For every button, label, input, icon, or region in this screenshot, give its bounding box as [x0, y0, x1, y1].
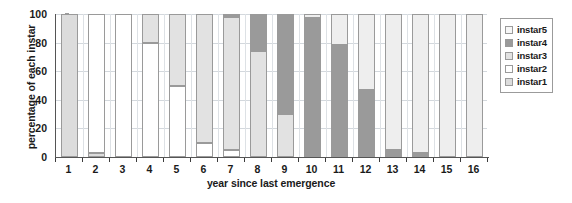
y-tick-label: 80: [17, 37, 47, 48]
x-tick-mark: [190, 158, 191, 162]
vertical-gridline: [110, 14, 111, 157]
bar-segment[interactable]: [196, 143, 214, 157]
y-tick-label: 0: [17, 152, 47, 163]
x-tick-label: 12: [351, 163, 381, 175]
x-tick-mark: [217, 158, 218, 162]
plot-area: [55, 14, 487, 157]
vertical-gridline: [218, 14, 219, 157]
bar-segment[interactable]: [115, 14, 133, 157]
x-tick-label: 5: [162, 163, 192, 175]
x-tick-label: 13: [378, 163, 408, 175]
bar-segment[interactable]: [358, 14, 376, 90]
vertical-gridline: [326, 14, 327, 157]
x-tick-label: 8: [243, 163, 273, 175]
bar-segment[interactable]: [169, 14, 187, 86]
legend-item[interactable]: instar5: [505, 23, 547, 36]
vertical-gridline: [245, 14, 246, 157]
bar-segment[interactable]: [277, 14, 295, 114]
legend-swatch-icon: [505, 65, 513, 73]
legend-swatch-icon: [505, 78, 513, 86]
chart-figure: percentage of each instar 020406080100 1…: [0, 0, 572, 203]
x-tick-label: 10: [297, 163, 327, 175]
x-tick-mark: [352, 158, 353, 162]
x-tick-mark: [379, 158, 380, 162]
bar-column[interactable]: [223, 14, 241, 157]
vertical-gridline: [434, 14, 435, 157]
legend-label: instar1: [517, 76, 547, 87]
vertical-gridline: [164, 14, 165, 157]
bar-column[interactable]: [61, 14, 79, 157]
legend-label: instar5: [517, 24, 547, 35]
x-tick-mark: [244, 158, 245, 162]
bar-segment[interactable]: [331, 14, 349, 45]
bar-segment[interactable]: [196, 14, 214, 143]
x-tick-mark: [109, 158, 110, 162]
x-axis-label: year since last emergence: [55, 177, 487, 189]
bar-segment[interactable]: [223, 17, 241, 150]
bar-segment[interactable]: [61, 14, 79, 157]
x-tick-label: 1: [54, 163, 84, 175]
bar-segment[interactable]: [304, 18, 322, 157]
legend-swatch-icon: [505, 26, 513, 34]
bar-column[interactable]: [412, 14, 430, 157]
bar-segment[interactable]: [250, 51, 268, 157]
bar-column[interactable]: [304, 14, 322, 157]
bar-column[interactable]: [358, 14, 376, 157]
bar-segment[interactable]: [385, 14, 403, 150]
x-tick-label: 4: [135, 163, 165, 175]
bar-segment[interactable]: [223, 14, 241, 17]
vertical-gridline: [353, 14, 354, 157]
legend-item[interactable]: instar2: [505, 62, 547, 75]
bar-column[interactable]: [196, 14, 214, 157]
legend-label: instar2: [517, 63, 547, 74]
bar-column[interactable]: [439, 14, 457, 157]
legend: instar5instar4instar3instar2instar1: [500, 18, 553, 93]
y-tick-label: 40: [17, 95, 47, 106]
bar-segment[interactable]: [88, 14, 106, 153]
legend-label: instar3: [517, 50, 547, 61]
bar-column[interactable]: [466, 14, 484, 157]
bar-segment[interactable]: [358, 90, 376, 157]
x-tick-label: 6: [189, 163, 219, 175]
legend-label: instar4: [517, 37, 547, 48]
bar-column[interactable]: [115, 14, 133, 157]
bar-column[interactable]: [250, 14, 268, 157]
bar-segment[interactable]: [142, 14, 160, 43]
vertical-gridline: [380, 14, 381, 157]
legend-swatch-icon: [505, 52, 513, 60]
bar-segment[interactable]: [304, 14, 322, 18]
vertical-gridline: [272, 14, 273, 157]
x-tick-label: 2: [81, 163, 111, 175]
bar-segment[interactable]: [169, 86, 187, 158]
bar-segment[interactable]: [439, 14, 457, 157]
bar-segment[interactable]: [277, 114, 295, 157]
x-tick-mark: [55, 158, 56, 162]
x-tick-mark: [487, 158, 488, 162]
bar-column[interactable]: [88, 14, 106, 157]
bar-column[interactable]: [169, 14, 187, 157]
bar-column[interactable]: [331, 14, 349, 157]
bar-column[interactable]: [142, 14, 160, 157]
bar-segment[interactable]: [142, 43, 160, 157]
x-tick-mark: [406, 158, 407, 162]
y-axis-ticks: 020406080100: [17, 14, 47, 157]
vertical-gridline: [461, 14, 462, 157]
x-tick-mark: [271, 158, 272, 162]
vertical-gridline: [299, 14, 300, 157]
bar-segment[interactable]: [412, 14, 430, 153]
x-tick-label: 9: [270, 163, 300, 175]
x-tick-mark: [433, 158, 434, 162]
bar-column[interactable]: [385, 14, 403, 157]
x-tick-label: 7: [216, 163, 246, 175]
bar-segment[interactable]: [385, 150, 403, 157]
legend-item[interactable]: instar3: [505, 49, 547, 62]
y-tick-label: 60: [17, 66, 47, 77]
bar-segment[interactable]: [331, 45, 349, 157]
bar-column[interactable]: [277, 14, 295, 157]
bar-segment[interactable]: [223, 150, 241, 157]
x-tick-mark: [325, 158, 326, 162]
bar-segment[interactable]: [250, 14, 268, 51]
legend-item[interactable]: instar1: [505, 75, 547, 88]
bar-segment[interactable]: [466, 14, 484, 157]
legend-item[interactable]: instar4: [505, 36, 547, 49]
